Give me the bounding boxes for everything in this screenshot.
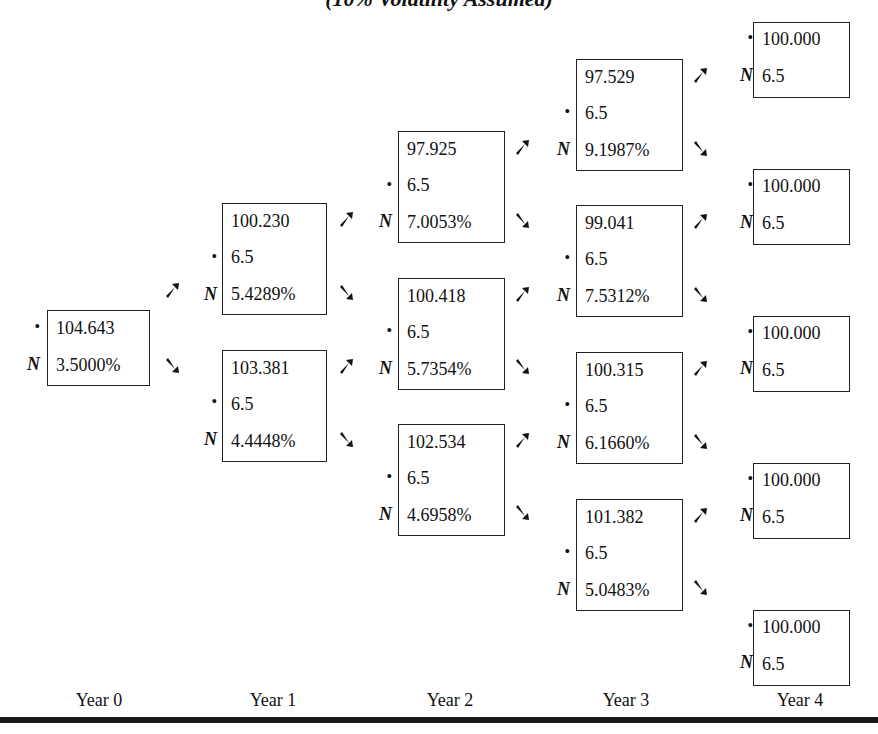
arrow-up-icon (514, 286, 530, 302)
node-rate: 9.1987% (585, 141, 650, 159)
node-coupon: 6.5 (585, 544, 608, 562)
node-value: 103.381 (231, 359, 290, 377)
bullet-label: • (372, 468, 392, 486)
bullet-label: • (197, 248, 217, 266)
node-rate: 6.1660% (585, 434, 650, 452)
bullet-label: • (733, 176, 753, 194)
node-coupon: 6.5 (762, 214, 785, 232)
node-rate: 5.7354% (407, 360, 472, 378)
n-label: N (733, 66, 753, 84)
bullet-label: • (197, 393, 217, 411)
node-rate: 5.0483% (585, 581, 650, 599)
bullet-label: • (372, 176, 392, 194)
arrow-down-icon (514, 359, 530, 375)
year-label-2: Year 2 (400, 690, 500, 711)
node-value: 97.925 (407, 140, 457, 158)
node-value: 102.534 (407, 433, 466, 451)
n-label: N (550, 286, 570, 304)
node-value: 104.643 (56, 319, 115, 337)
arrow-up-icon (514, 139, 530, 155)
bullet-label: • (550, 396, 570, 414)
bullet-label: • (550, 103, 570, 121)
node-value: 100.000 (762, 471, 821, 489)
n-label: N (20, 355, 40, 373)
node-coupon: 6.5 (762, 361, 785, 379)
node-value: 100.230 (231, 212, 290, 230)
n-label: N (197, 430, 217, 448)
n-label: N (372, 212, 392, 230)
year-label-4: Year 4 (750, 690, 850, 711)
node-rate: 4.4448% (231, 432, 296, 450)
arrow-down-icon (692, 434, 708, 450)
node-coupon: 6.5 (407, 176, 430, 194)
arrow-down-icon (338, 432, 354, 448)
arrow-up-icon (692, 67, 708, 83)
bullet-label: • (733, 470, 753, 488)
node-coupon: 6.5 (407, 323, 430, 341)
bullet-label: • (550, 249, 570, 267)
node-coupon: 6.5 (762, 508, 785, 526)
arrow-down-icon (692, 287, 708, 303)
n-label: N (550, 140, 570, 158)
node-coupon: 6.5 (585, 250, 608, 268)
node-coupon: 6.5 (231, 395, 254, 413)
n-label: N (550, 433, 570, 451)
node-rate: 3.5000% (56, 356, 121, 374)
arrow-down-icon (692, 580, 708, 596)
node-value: 99.041 (585, 214, 635, 232)
node-value: 100.418 (407, 287, 466, 305)
node-coupon: 6.5 (231, 248, 254, 266)
n-label: N (733, 653, 753, 671)
node-rate: 4.6958% (407, 506, 472, 524)
year-label-3: Year 3 (576, 690, 676, 711)
n-label: N (372, 359, 392, 377)
bullet-label: • (733, 617, 753, 635)
node-coupon: 6.5 (762, 655, 785, 673)
node-coupon: 6.5 (585, 397, 608, 415)
year-label-0: Year 0 (49, 690, 149, 711)
bullet-label: • (733, 29, 753, 47)
node-rate: 7.5312% (585, 287, 650, 305)
node-value: 100.000 (762, 324, 821, 342)
n-label: N (550, 580, 570, 598)
arrow-down-icon (514, 213, 530, 229)
diagram-title: (10% Volatility Assumed) (0, 0, 878, 12)
arrow-down-icon (338, 285, 354, 301)
arrow-up-icon (338, 211, 354, 227)
n-label: N (197, 285, 217, 303)
n-label: N (372, 505, 392, 523)
arrow-up-icon (692, 507, 708, 523)
node-value: 100.315 (585, 361, 644, 379)
bullet-label: • (20, 318, 40, 336)
arrow-up-icon (338, 358, 354, 374)
node-coupon: 6.5 (407, 469, 430, 487)
n-label: N (733, 213, 753, 231)
node-value: 100.000 (762, 618, 821, 636)
node-value: 101.382 (585, 508, 644, 526)
node-coupon: 6.5 (762, 67, 785, 85)
arrow-up-icon (692, 360, 708, 376)
n-label: N (733, 506, 753, 524)
arrow-down-icon (514, 505, 530, 521)
bullet-label: • (550, 543, 570, 561)
arrow-up-icon (164, 282, 180, 298)
node-value: 100.000 (762, 30, 821, 48)
arrow-up-icon (692, 213, 708, 229)
arrow-down-icon (164, 358, 180, 374)
arrow-down-icon (692, 141, 708, 157)
node-value: 100.000 (762, 177, 821, 195)
bullet-label: • (733, 323, 753, 341)
n-label: N (733, 359, 753, 377)
year-label-1: Year 1 (223, 690, 323, 711)
node-value: 97.529 (585, 68, 635, 86)
node-rate: 5.4289% (231, 285, 296, 303)
bottom-divider (0, 717, 878, 723)
arrow-up-icon (514, 432, 530, 448)
bullet-label: • (372, 322, 392, 340)
node-coupon: 6.5 (585, 104, 608, 122)
node-rate: 7.0053% (407, 213, 472, 231)
